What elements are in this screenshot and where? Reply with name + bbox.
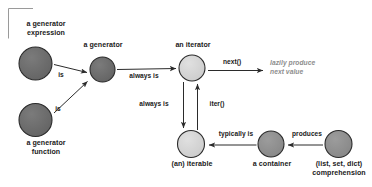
node-label-iterator: an iterator <box>152 41 234 50</box>
node-iterable[interactable] <box>178 131 205 158</box>
diagram-canvas: a generator expression a generator funct… <box>0 0 372 187</box>
node-generator[interactable] <box>90 57 115 82</box>
edge-label-iterator-always-is-iterable: always is <box>129 100 179 109</box>
node-label-iterable: (an) iterable <box>151 160 233 169</box>
edge-label-iterable-iter-iterator: iter() <box>200 100 234 109</box>
node-iterator[interactable] <box>179 55 205 81</box>
node-comprehension[interactable] <box>325 131 352 158</box>
note-lazily-produce-next-value: lazily produce next value <box>270 59 370 77</box>
node-label-comprehension: (list, set, dict) comprehension <box>298 160 372 178</box>
edge-label-comprehension-produces-container: produces <box>285 130 329 139</box>
edge-label-container-typically-is-iterable: typically is <box>210 130 262 139</box>
edge-label-function-is-generator: is <box>43 105 73 114</box>
node-label-generator-expression: a generator expression <box>0 20 92 38</box>
node-label-generator: a generator <box>62 41 144 50</box>
edge-label-iterator-next: next() <box>211 58 253 67</box>
edge-label-generator-always-is-iterator: always is <box>114 72 174 81</box>
node-label-generator-function: a generator function <box>0 139 92 157</box>
edge-label-expression-is-generator: is <box>46 71 76 80</box>
edge-generator-always-is-iterator <box>117 69 176 70</box>
